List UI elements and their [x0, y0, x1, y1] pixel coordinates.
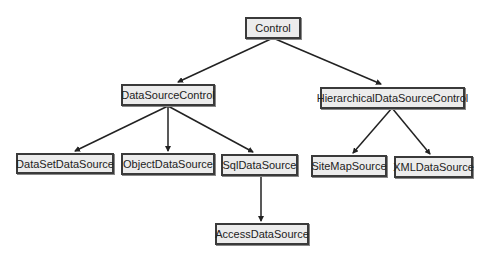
edge-control-datasourcecontrol [178, 38, 273, 82]
edges-layer [0, 0, 486, 254]
node-objectdatasource: ObjectDataSource [121, 153, 215, 175]
node-datasetdatasource: DataSetDataSource [16, 153, 114, 174]
edge-hier-xml [392, 108, 430, 154]
edge-dsc-sql [168, 106, 253, 152]
node-xmldatasource: XMLDataSource [394, 156, 473, 178]
node-hierarchicaldatasourcecontrol: HierarchicalDataSourceControl [320, 87, 465, 109]
node-sitemapsource: SiteMapSource [311, 155, 387, 177]
node-control: Control [245, 17, 301, 39]
node-sqldatasource: SqlDataSource [221, 154, 298, 176]
edge-hier-sitemap [353, 108, 392, 153]
edge-dsc-dataset [75, 106, 168, 151]
node-datasourcecontrol: DataSourceControl [121, 84, 215, 106]
edge-control-hierarchical [273, 38, 381, 84]
node-accessdatasource: AccessDataSource [215, 223, 309, 245]
